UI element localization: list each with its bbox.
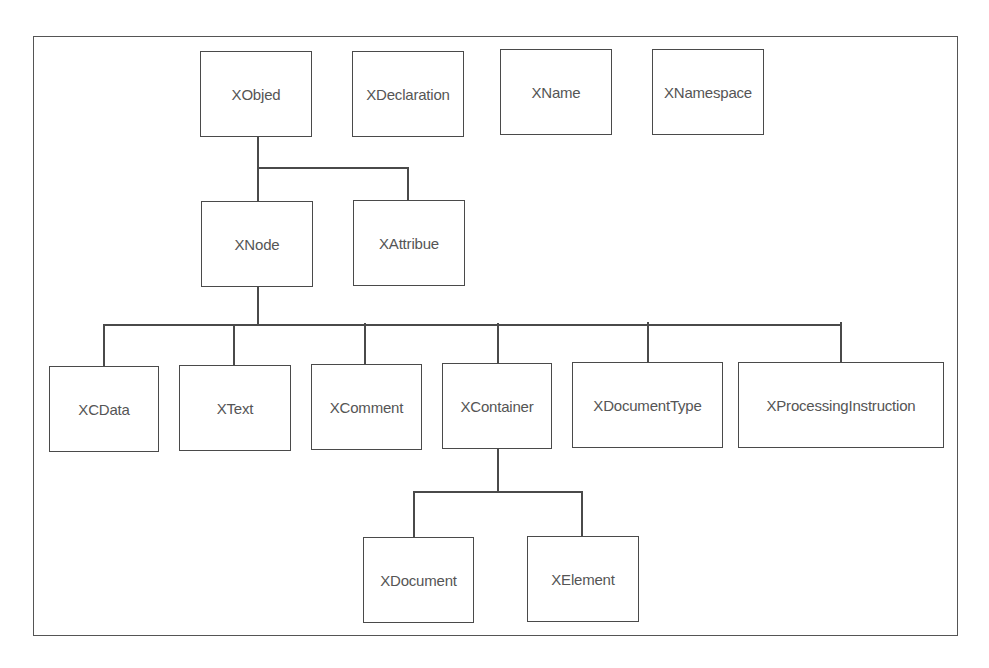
- connector-line: [233, 324, 235, 365]
- class-node-label: XComment: [330, 399, 403, 416]
- connector-line: [257, 137, 259, 201]
- class-node-label: XCData: [78, 401, 129, 418]
- class-node-xcomment: XComment: [311, 364, 422, 450]
- class-node-label: XText: [217, 400, 254, 417]
- class-node-label: XDocumentType: [593, 397, 701, 414]
- connector-line: [840, 322, 842, 362]
- class-node-xtext: XText: [179, 365, 291, 451]
- class-node-label: XContainer: [460, 398, 533, 415]
- connector-line: [257, 287, 259, 325]
- class-node-label: XName: [531, 84, 580, 101]
- class-node-xattribute: XAttribue: [353, 200, 465, 286]
- class-node-xprocessinginstruction: XProcessingInstruction: [738, 362, 944, 448]
- class-node-label: XElement: [551, 571, 614, 588]
- diagram-frame: [33, 36, 958, 636]
- class-node-label: XNode: [235, 236, 280, 253]
- connector-line: [581, 491, 583, 536]
- connector-line: [497, 323, 499, 363]
- connector-line: [413, 491, 415, 537]
- connector-line: [257, 167, 408, 169]
- class-node-xcdata: XCData: [49, 366, 159, 452]
- class-node-label: XDocument: [380, 572, 457, 589]
- class-node-label: XProcessingInstruction: [766, 397, 915, 414]
- class-node-label: XNamespace: [664, 84, 752, 101]
- class-node-xname: XName: [500, 49, 612, 135]
- class-node-xnamespace: XNamespace: [652, 49, 764, 135]
- connector-line: [497, 449, 499, 492]
- class-node-xobject: XObjed: [200, 51, 312, 137]
- connector-line: [364, 323, 366, 364]
- class-node-xdeclaration: XDeclaration: [352, 51, 464, 137]
- class-node-label: XObjed: [232, 86, 281, 103]
- class-node-label: XDeclaration: [366, 86, 449, 103]
- class-node-xnode: XNode: [201, 201, 313, 287]
- connector-line: [647, 322, 649, 362]
- connector-line: [103, 324, 105, 366]
- class-node-xdocumenttype: XDocumentType: [572, 362, 723, 448]
- connector-line: [407, 167, 409, 200]
- class-node-xcontainer: XContainer: [442, 363, 552, 449]
- class-node-xdocument: XDocument: [363, 537, 474, 623]
- class-node-label: XAttribue: [379, 235, 439, 252]
- connector-line: [413, 491, 582, 493]
- connector-line: [103, 324, 841, 326]
- class-node-xelement: XElement: [527, 536, 639, 622]
